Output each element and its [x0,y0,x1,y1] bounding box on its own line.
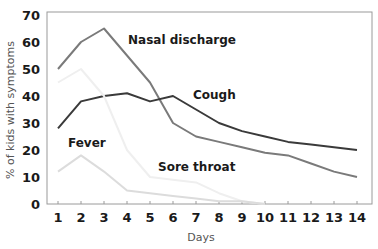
y-tick-label: 30 [22,116,40,131]
x-tick-label: 10 [256,210,274,225]
y-tick-label: 20 [22,143,40,158]
x-tick-label: 14 [348,210,366,225]
x-axis-label: Days [187,231,215,244]
y-tick-label: 0 [31,197,40,212]
x-tick-label: 4 [122,210,131,225]
y-axis-ticks: 010203040506070 [22,8,40,212]
y-tick-label: 70 [22,8,40,23]
cough-label: Cough [193,88,236,102]
x-tick-label: 7 [191,210,200,225]
x-tick-label: 5 [145,210,154,225]
nasal-discharge-line [58,29,357,178]
y-tick-label: 50 [22,62,40,77]
sore-throat-label: Sore throat [158,160,236,174]
y-tick-label: 40 [22,89,40,104]
x-tick-label: 8 [214,210,223,225]
series-labels: Nasal dischargeCoughFeverSore throat [68,33,236,174]
x-tick-label: 9 [237,210,246,225]
nasal-discharge-label: Nasal discharge [128,33,236,47]
fever-label: Fever [68,136,106,150]
x-tick-label: 1 [53,210,62,225]
x-axis-ticks: 1234567891011121314 [53,201,366,225]
y-axis-label: % of kids with symptoms [4,41,17,179]
x-tick-label: 12 [302,210,320,225]
x-tick-label: 11 [279,210,297,225]
symptoms-line-chart: 010203040506070 1234567891011121314 Nasa… [0,0,378,249]
y-tick-label: 10 [22,170,40,185]
y-tick-label: 60 [22,35,40,50]
x-tick-label: 3 [99,210,108,225]
x-tick-label: 2 [76,210,85,225]
series-lines [58,29,357,205]
x-tick-label: 13 [325,210,343,225]
x-tick-label: 6 [168,210,177,225]
